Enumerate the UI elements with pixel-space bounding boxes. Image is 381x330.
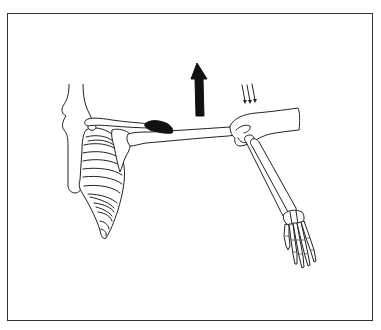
upward-force-arrow	[191, 63, 207, 116]
figure-canvas	[0, 0, 381, 330]
anatomy-illustration	[0, 0, 381, 330]
hand-bones	[284, 221, 316, 268]
examiner-hand	[230, 108, 300, 146]
forearm-bones	[245, 135, 297, 218]
shaded-muscle	[145, 121, 173, 134]
downward-pressure-arrows	[242, 84, 257, 104]
